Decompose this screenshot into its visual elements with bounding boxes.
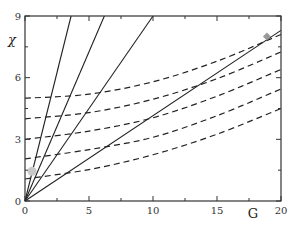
x-axis-title: G [248,206,258,221]
y-tick-label-3: 3 [15,134,21,145]
solid-line-4 [25,30,281,201]
y-axis-title: χ [7,32,17,47]
y-tick-label-0: 0 [15,196,21,207]
chart: 0 5 10 15 20 0 3 6 9 G χ [0,0,299,227]
x-tick-label-0: 0 [22,205,28,216]
plot-lines [25,16,281,201]
y-tick-label-6: 6 [15,72,21,83]
x-tick-label-5: 5 [86,205,92,216]
x-tick-label-15: 15 [211,205,224,216]
y-tick-label-9: 9 [15,11,21,22]
solid-line-3 [25,16,153,201]
dashed-curve-1 [25,35,281,99]
plot-frame [25,16,281,201]
axis-ticks [25,16,281,201]
grey-dot-marker [28,167,37,176]
dashed-curve-3 [25,69,281,139]
x-tick-label-20: 20 [275,205,288,216]
x-tick-label-10: 10 [147,205,160,216]
dashed-curve-5 [25,109,281,180]
